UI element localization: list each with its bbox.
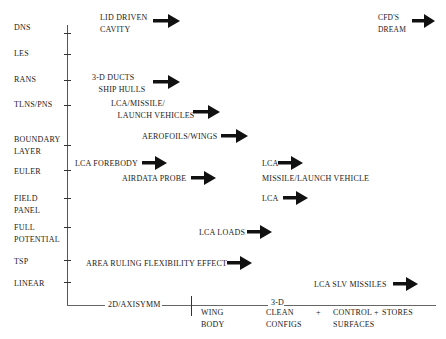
app-lid-driven-cavity: LID DRIVEN CAVITY [100,12,148,35]
y-level-boundary-layer: BOUNDARY LAYER [14,134,61,157]
arrow-right-icon [142,156,168,170]
app-lca-forebody: LCA FOREBODY [75,158,138,170]
app-3d-ducts-ship-hulls: 3-D DUCTS SHIP HULLS [92,72,145,95]
arrow-right-icon [193,105,221,119]
y-level-rans: RANS [14,74,36,86]
x-axis-segment-2d: 2D/AXISYMM [108,299,161,311]
arrow-right-icon [412,14,436,28]
x-axis-line-3d [284,305,436,306]
y-level-euler: EULER [14,166,41,178]
y-level-dns: DNS [14,22,31,34]
app-cfds-dream: CFD'S DREAM [378,12,406,35]
app-missile-launch-vehicle: MISSILE/LAUNCH VEHICLE [262,173,369,185]
arrow-right-icon [221,129,249,143]
arrow-right-icon [191,171,217,185]
cfd-capability-diagram: DNS LES RANS TLNS/PNS BOUNDARY LAYER EUL… [0,0,446,339]
x-axis-divider [191,296,192,316]
y-axis-line [67,25,68,305]
y-tick [64,260,71,261]
arrow-right-icon [153,14,181,28]
y-tick [64,105,71,106]
app-area-ruling-flexibility-effect: AREA RULING FLEXIBILITY EFFECT [86,258,227,270]
app-lca-missile-launch-vehicles: LCA/MISSILE/ LAUNCH VEHICLES [111,98,194,121]
y-level-linear: LINEAR [14,278,45,290]
x-category-control-surfaces: CONTROL + SURFACES [333,307,379,330]
app-aerofoils-wings: AEROFOILS/WINGS [142,131,217,143]
y-tick [64,170,71,171]
y-tick [64,198,71,199]
x-axis-line-2d-right [162,305,250,306]
y-level-tlns-pns: TLNS/PNS [14,99,53,111]
x-category-plus: + [316,307,321,319]
y-level-field-panel: FIELD PANEL [14,193,40,216]
arrow-right-icon [278,156,304,170]
app-lca-slv-missiles: LCA SLV MISSILES [314,279,387,291]
x-category-clean-configs: CLEAN CONFIGS [266,307,302,330]
x-category-wing-body: WING BODY [201,307,224,330]
y-tick [64,227,71,228]
y-tick [64,54,71,55]
x-category-stores: STORES [382,307,413,319]
arrow-right-icon [247,225,273,239]
y-level-les: LES [14,48,29,60]
y-tick [64,145,71,146]
app-lca-field-panel: LCA [262,193,279,205]
app-lca-loads: LCA LOADS [199,227,245,239]
arrow-right-icon [393,277,419,291]
y-tick [64,282,71,283]
arrow-right-icon [283,191,309,205]
y-tick [64,33,71,34]
y-tick [64,80,71,81]
app-lca-euler-3d: LCA [262,158,279,170]
arrow-right-icon [153,75,181,89]
y-level-tsp: TSP [14,256,28,268]
arrow-right-icon [227,256,253,270]
y-level-full-potential: FULL POTENTIAL [14,222,60,245]
x-axis-line-2d-left [67,305,105,306]
x-axis-line-3d-left [250,305,268,306]
app-airdata-probe: AIRDATA PROBE [122,173,186,185]
